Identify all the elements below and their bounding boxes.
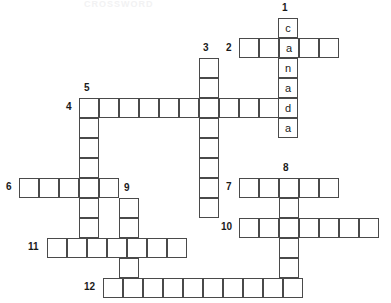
crossword-cell[interactable] bbox=[263, 278, 283, 298]
crossword-cell[interactable] bbox=[103, 278, 123, 298]
crossword-cell[interactable] bbox=[79, 218, 99, 238]
crossword-cell[interactable] bbox=[259, 38, 279, 58]
crossword-cell[interactable] bbox=[59, 178, 79, 198]
crossword-cell[interactable] bbox=[239, 218, 259, 238]
crossword-cell[interactable] bbox=[47, 238, 67, 258]
crossword-cell[interactable] bbox=[183, 278, 203, 298]
crossword-cell[interactable] bbox=[199, 198, 219, 218]
crossword-puzzle: CROSSWORD 1canada2a3456789101112 bbox=[0, 0, 391, 303]
clue-number-9: 9 bbox=[124, 182, 130, 194]
crossword-cell[interactable] bbox=[199, 178, 219, 198]
crossword-cell[interactable] bbox=[259, 98, 279, 118]
crossword-cell[interactable]: a bbox=[278, 118, 298, 138]
crossword-cell[interactable] bbox=[279, 258, 299, 278]
crossword-cell[interactable] bbox=[79, 138, 99, 158]
crossword-cell[interactable] bbox=[119, 98, 139, 118]
crossword-cell[interactable] bbox=[87, 238, 107, 258]
crossword-cell[interactable] bbox=[279, 238, 299, 258]
crossword-cell[interactable] bbox=[239, 178, 259, 198]
crossword-cell[interactable] bbox=[299, 38, 319, 58]
crossword-cell[interactable] bbox=[79, 178, 99, 198]
crossword-cell[interactable] bbox=[39, 178, 59, 198]
crossword-cell[interactable] bbox=[199, 138, 219, 158]
crossword-cell[interactable] bbox=[127, 238, 147, 258]
clue-number-3: 3 bbox=[203, 42, 209, 54]
crossword-cell[interactable] bbox=[199, 78, 219, 98]
crossword-cell[interactable] bbox=[179, 98, 199, 118]
crossword-cell[interactable] bbox=[299, 218, 319, 238]
clue-number-6: 6 bbox=[6, 181, 12, 193]
crossword-cell[interactable] bbox=[223, 278, 243, 298]
crossword-cell[interactable] bbox=[107, 238, 127, 258]
clue-number-7: 7 bbox=[226, 181, 232, 193]
puzzle-title: CROSSWORD bbox=[84, 0, 154, 9]
crossword-cell[interactable]: a bbox=[278, 78, 298, 98]
crossword-cell[interactable]: a bbox=[279, 38, 299, 58]
clue-number-10: 10 bbox=[221, 221, 232, 233]
crossword-cell[interactable] bbox=[119, 258, 139, 278]
clue-number-5: 5 bbox=[84, 82, 90, 94]
crossword-cell[interactable]: c bbox=[278, 18, 298, 38]
crossword-cell[interactable]: d bbox=[278, 98, 298, 118]
crossword-cell[interactable] bbox=[279, 218, 299, 238]
crossword-cell[interactable] bbox=[319, 178, 339, 198]
crossword-cell[interactable] bbox=[259, 178, 279, 198]
crossword-cell[interactable] bbox=[143, 278, 163, 298]
crossword-cell[interactable] bbox=[79, 198, 99, 218]
crossword-cell[interactable] bbox=[319, 218, 339, 238]
crossword-cell[interactable] bbox=[239, 38, 259, 58]
crossword-cell[interactable] bbox=[283, 278, 303, 298]
clue-number-2: 2 bbox=[226, 42, 232, 54]
crossword-cell[interactable] bbox=[119, 198, 139, 218]
crossword-cell[interactable] bbox=[167, 238, 187, 258]
crossword-cell[interactable] bbox=[119, 218, 139, 238]
crossword-cell[interactable] bbox=[319, 38, 339, 58]
crossword-cell[interactable] bbox=[239, 98, 259, 118]
crossword-cell[interactable] bbox=[199, 98, 219, 118]
crossword-cell[interactable] bbox=[243, 278, 263, 298]
crossword-cell[interactable] bbox=[219, 98, 239, 118]
crossword-cell[interactable] bbox=[147, 238, 167, 258]
clue-number-1: 1 bbox=[282, 2, 288, 14]
clue-number-12: 12 bbox=[84, 281, 95, 293]
crossword-cell[interactable] bbox=[359, 218, 379, 238]
crossword-cell[interactable] bbox=[99, 178, 119, 198]
crossword-cell[interactable] bbox=[99, 98, 119, 118]
crossword-cell[interactable] bbox=[79, 158, 99, 178]
crossword-cell[interactable] bbox=[339, 218, 359, 238]
crossword-cell[interactable] bbox=[163, 278, 183, 298]
crossword-cell[interactable] bbox=[299, 178, 319, 198]
crossword-cell[interactable] bbox=[259, 218, 279, 238]
crossword-cell[interactable] bbox=[203, 278, 223, 298]
crossword-cell[interactable] bbox=[199, 118, 219, 138]
crossword-cell[interactable] bbox=[19, 178, 39, 198]
crossword-cell[interactable] bbox=[279, 198, 299, 218]
crossword-cell[interactable] bbox=[123, 278, 143, 298]
crossword-cell[interactable] bbox=[79, 98, 99, 118]
clue-number-4: 4 bbox=[66, 101, 72, 113]
crossword-cell[interactable] bbox=[139, 98, 159, 118]
clue-number-11: 11 bbox=[28, 241, 39, 253]
clue-number-8: 8 bbox=[283, 162, 289, 174]
crossword-cell[interactable] bbox=[279, 178, 299, 198]
crossword-cell[interactable] bbox=[199, 158, 219, 178]
crossword-cell[interactable] bbox=[79, 118, 99, 138]
crossword-cell[interactable]: n bbox=[278, 58, 298, 78]
crossword-cell[interactable] bbox=[67, 238, 87, 258]
crossword-cell[interactable] bbox=[199, 58, 219, 78]
crossword-cell[interactable] bbox=[159, 98, 179, 118]
